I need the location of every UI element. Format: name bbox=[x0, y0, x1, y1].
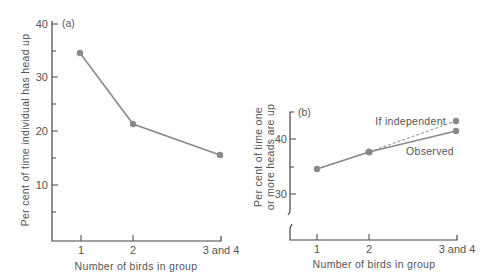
chart-a-xlabel-3and4: 3 and 4 bbox=[203, 244, 240, 256]
chart-a-ylabel-10: 10 bbox=[36, 179, 48, 191]
chart-b: 40 30 1 2 3 and 4 (b) Number of birds in… bbox=[252, 104, 475, 270]
chart-a-xlabel-2: 2 bbox=[130, 244, 136, 256]
chart-a-ylabel-30: 30 bbox=[36, 71, 48, 83]
chart-b-axes-lower bbox=[290, 224, 457, 240]
chart-a-line bbox=[80, 53, 220, 155]
chart-a-point-3and4 bbox=[217, 152, 223, 158]
chart-b-legend-observed: Observed bbox=[406, 145, 454, 157]
chart-b-point-2 bbox=[365, 148, 372, 155]
chart-b-ylabel-40: 40 bbox=[275, 133, 287, 145]
chart-a-y-axis-title: Per cent of time individual has head up bbox=[19, 34, 31, 227]
chart-b-y-axis-title-line1: Per cent of time one bbox=[252, 107, 264, 207]
chart-b-xlabel-1: 1 bbox=[314, 243, 320, 255]
chart-a-point-1 bbox=[77, 50, 83, 56]
chart-a-ylabel-40: 40 bbox=[36, 18, 48, 30]
chart-b-legend-independent: If independent bbox=[375, 115, 446, 127]
chart-b-ylabel-30: 30 bbox=[275, 188, 287, 200]
chart-a-x-axis-title: Number of birds in group bbox=[75, 260, 198, 272]
chart-b-y-axis-title-line2: or more heads are up bbox=[264, 104, 276, 210]
chart-a: 40 30 20 10 1 2 3 and 4 (a) Number of bi… bbox=[19, 17, 239, 272]
chart-b-x-axis-title: Number of birds in group bbox=[313, 258, 436, 270]
chart-b-y-axis-upper bbox=[288, 112, 294, 215]
chart-a-ylabel-20: 20 bbox=[36, 125, 48, 137]
chart-b-xlabel-3and4: 3 and 4 bbox=[439, 243, 476, 255]
chart-b-point-3and4-independent bbox=[453, 118, 459, 124]
chart-b-point-3and4-observed bbox=[453, 128, 459, 134]
figure: 40 30 20 10 1 2 3 and 4 (a) Number of bi… bbox=[0, 0, 495, 278]
chart-b-point-1 bbox=[314, 166, 320, 172]
chart-b-xlabel-2: 2 bbox=[366, 243, 372, 255]
chart-b-panel-label: (b) bbox=[298, 106, 311, 118]
chart-a-point-2 bbox=[130, 121, 136, 127]
chart-a-panel-label: (a) bbox=[62, 17, 75, 29]
chart-a-xlabel-1: 1 bbox=[78, 244, 84, 256]
